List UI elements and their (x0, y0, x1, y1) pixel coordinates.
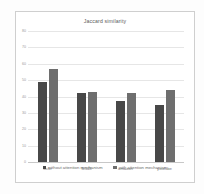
bar (155, 105, 164, 162)
bar (49, 69, 58, 162)
y-axis-tick-label: 50 (22, 78, 26, 82)
figure-canvas: Jaccard similarity 01020304050607080 fli… (0, 0, 204, 194)
legend-item: without attention mechanism (43, 165, 103, 170)
gridline (28, 162, 184, 163)
bar (38, 82, 47, 162)
legend-swatch-icon (43, 166, 46, 169)
legend-label: without attention mechanism (48, 165, 102, 170)
legend-label: with attention mechanism (119, 165, 167, 170)
bar (77, 93, 86, 162)
bar-group (67, 31, 106, 162)
y-axis-tick-label: 40 (22, 95, 26, 99)
bar-group (106, 31, 145, 162)
bar (166, 90, 175, 162)
chart-title: Jaccard similarity (16, 18, 194, 24)
bar-group (28, 31, 67, 162)
y-axis-tick-label: 30 (22, 111, 26, 115)
bar-series-container (28, 31, 184, 162)
y-axis-tick-label: 70 (22, 45, 26, 49)
y-axis-tick-label: 0 (24, 160, 26, 164)
legend-swatch-icon (113, 166, 116, 169)
chart-legend: without attention mechanismwith attentio… (16, 165, 194, 170)
plot-area: 01020304050607080 flickrfk348amazonyoutu… (28, 31, 184, 162)
legend-item: with attention mechanism (113, 165, 167, 170)
chart-frame: Jaccard similarity 01020304050607080 fli… (15, 11, 195, 183)
y-axis-tick-label: 60 (22, 62, 26, 66)
bar-group (145, 31, 184, 162)
bar (88, 92, 97, 162)
y-axis-tick-label: 10 (22, 144, 26, 148)
bar (116, 101, 125, 162)
y-axis-tick-label: 80 (22, 29, 26, 33)
bar (127, 93, 136, 162)
y-axis-tick-label: 20 (22, 127, 26, 131)
